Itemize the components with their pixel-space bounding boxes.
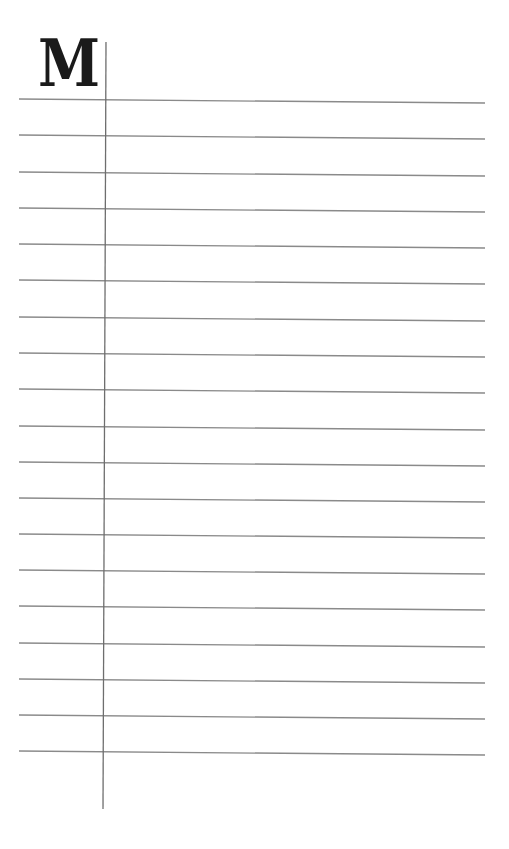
ruled-line xyxy=(19,426,485,430)
ruled-lines xyxy=(0,0,509,849)
ruled-line xyxy=(19,534,485,538)
ruled-line xyxy=(19,751,485,755)
ruled-line xyxy=(19,353,485,357)
ruled-line xyxy=(19,606,485,610)
ruled-line xyxy=(19,570,485,574)
ruled-line xyxy=(19,208,485,212)
margin-line xyxy=(103,42,106,809)
ruled-line xyxy=(19,172,485,176)
ruled-line xyxy=(19,280,485,284)
ruled-line xyxy=(19,135,485,139)
ruled-line xyxy=(19,643,485,647)
ruled-line xyxy=(19,389,485,393)
ruled-line xyxy=(19,498,485,502)
ruled-line xyxy=(19,317,485,321)
ruled-line xyxy=(19,715,485,719)
ruled-line xyxy=(19,679,485,683)
notebook-page: M xyxy=(0,0,509,849)
ruled-line xyxy=(19,244,485,248)
ruled-line xyxy=(19,99,485,103)
ruled-line xyxy=(19,462,485,466)
